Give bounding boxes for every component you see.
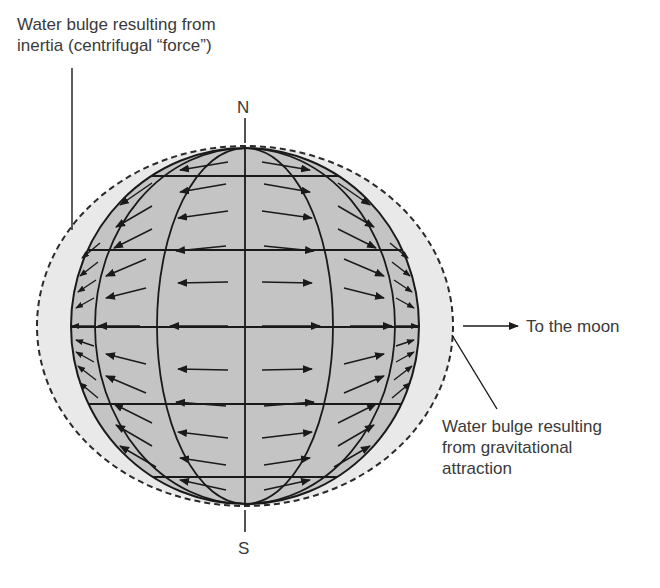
- gravity-bulge-label-line1: Water bulge resulting: [442, 416, 602, 437]
- gravity-bulge-label: Water bulge resulting from gravitational…: [442, 416, 602, 479]
- to-moon-label: To the moon: [526, 316, 620, 337]
- inertia-bulge-label-line2: inertia (centrifugal “force”): [17, 35, 216, 56]
- gravity-bulge-label-line2: from gravitational: [442, 437, 602, 458]
- north-label: N: [237, 97, 249, 118]
- south-label: S: [238, 538, 249, 559]
- gravity-bulge-leader-line: [452, 335, 497, 409]
- inertia-bulge-label: Water bulge resulting from inertia (cent…: [17, 14, 216, 56]
- gravity-bulge-label-line3: attraction: [442, 458, 602, 479]
- tidal-bulge-diagram: [0, 0, 660, 588]
- inertia-bulge-label-line1: Water bulge resulting from: [17, 14, 216, 35]
